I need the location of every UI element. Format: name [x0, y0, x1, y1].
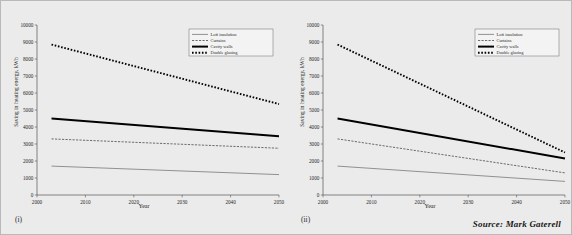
legend-label: Loft insulation: [497, 32, 524, 37]
svg-text:6000: 6000: [309, 90, 320, 96]
legend-label: Curtains: [497, 38, 512, 43]
subfigure-label-ii: (ii): [301, 215, 310, 224]
svg-text:10000: 10000: [306, 22, 319, 28]
source-credit: Source: Mark Gaterell: [473, 219, 561, 229]
x-axis-label-ii: Year: [289, 203, 571, 209]
figure-container: 0100020003000400050006000700080009000100…: [0, 0, 572, 235]
subfigure-label-i: (i): [15, 215, 22, 224]
svg-text:0: 0: [31, 192, 34, 198]
svg-text:5000: 5000: [23, 107, 34, 113]
legend-label: Curtains: [211, 38, 226, 43]
chart-svg-ii: 0100020003000400050006000700080009000100…: [289, 7, 571, 231]
series-line: [338, 139, 565, 173]
chart-panel-i: 0100020003000400050006000700080009000100…: [3, 7, 285, 231]
svg-text:7000: 7000: [309, 73, 320, 79]
legend-label: Cavity walls: [211, 44, 233, 49]
chart-panel-ii: 0100020003000400050006000700080009000100…: [289, 7, 571, 231]
svg-text:3000: 3000: [23, 141, 34, 147]
series-line: [338, 119, 565, 159]
svg-text:7000: 7000: [23, 73, 34, 79]
svg-text:5000: 5000: [309, 107, 320, 113]
series-line: [52, 139, 279, 148]
svg-text:9000: 9000: [23, 39, 34, 45]
svg-text:3000: 3000: [309, 141, 320, 147]
svg-text:0: 0: [317, 192, 320, 198]
series-line: [338, 166, 565, 181]
x-axis-label-i: Year: [3, 203, 285, 209]
svg-text:2000: 2000: [23, 158, 34, 164]
svg-text:1000: 1000: [309, 175, 320, 181]
svg-text:2000: 2000: [309, 158, 320, 164]
svg-text:6000: 6000: [23, 90, 34, 96]
legend-label: Loft insulation: [211, 32, 238, 37]
legend-label: Double glazing: [497, 50, 525, 55]
svg-text:8000: 8000: [309, 56, 320, 62]
series-line: [338, 45, 565, 153]
chart-svg-i: 0100020003000400050006000700080009000100…: [3, 7, 285, 231]
svg-text:4000: 4000: [23, 124, 34, 130]
legend-label: Cavity walls: [497, 44, 519, 49]
svg-text:4000: 4000: [309, 124, 320, 130]
svg-text:9000: 9000: [309, 39, 320, 45]
y-axis-label-ii: Saving in heating energy, kWh: [299, 32, 305, 152]
series-line: [52, 119, 279, 137]
svg-text:1000: 1000: [23, 175, 34, 181]
svg-text:8000: 8000: [23, 56, 34, 62]
legend-label: Double glazing: [211, 50, 239, 55]
svg-text:10000: 10000: [20, 22, 33, 28]
y-axis-label-i: Saving in heating energy, kWh: [13, 32, 19, 152]
series-line: [52, 166, 279, 175]
